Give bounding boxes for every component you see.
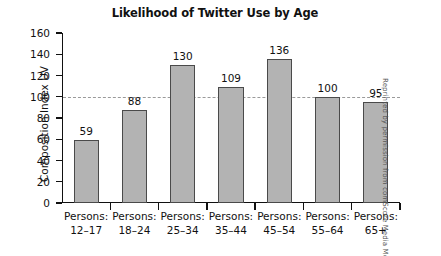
bar-2: [170, 65, 195, 203]
x-cat-label-1: Persons:18–24: [112, 209, 156, 237]
bar-value-label-2: 130: [173, 50, 193, 62]
credit-text: Reprinted by permission from comScore Me…: [381, 78, 389, 238]
y-tick-160: [56, 32, 62, 33]
x-cat-label-line2-0: 12–17: [64, 223, 108, 237]
x-tick-1: [158, 203, 159, 210]
y-tick-label-120: 120: [30, 70, 50, 82]
bar-5: [315, 97, 340, 203]
y-tick-40: [56, 160, 62, 161]
y-tick-100: [56, 96, 62, 97]
x-cat-label-line1-0: Persons:: [64, 209, 108, 223]
x-cat-label-5: Persons:55–64: [305, 209, 349, 237]
y-tick-0: [56, 202, 62, 203]
y-tick-label-20: 20: [37, 176, 50, 188]
x-tick-2: [206, 203, 207, 210]
bar-0: [74, 140, 99, 203]
x-cat-label-line1-5: Persons:: [305, 209, 349, 223]
y-tick-80: [56, 117, 62, 118]
bar-value-label-1: 88: [128, 95, 141, 107]
y-tick-20: [56, 181, 62, 182]
bar-value-label-3: 109: [221, 72, 241, 84]
y-tick-60: [56, 139, 62, 140]
bar-value-label-4: 136: [269, 44, 289, 56]
bar-3: [218, 87, 243, 203]
bar-value-label-5: 100: [318, 82, 338, 94]
x-cat-label-line2-5: 55–64: [305, 223, 349, 237]
bar-value-label-0: 59: [79, 125, 92, 137]
x-cat-label-6: Persons:65+: [354, 209, 398, 237]
y-tick-label-160: 160: [30, 27, 50, 39]
x-cat-label-line2-6: 65+: [354, 223, 398, 237]
x-cat-label-line1-3: Persons:: [209, 209, 253, 223]
y-tick-label-140: 140: [30, 48, 50, 60]
x-cat-label-line1-4: Persons:: [257, 209, 301, 223]
plot-area: 020406080100120140160 598813010913610095: [62, 33, 400, 203]
x-cat-label-line2-2: 25–34: [161, 223, 205, 237]
y-axis-line: [62, 33, 63, 203]
x-cat-label-line1-1: Persons:: [112, 209, 156, 223]
bar-4: [267, 59, 292, 204]
y-tick-label-0: 0: [43, 197, 50, 209]
x-cat-label-3: Persons:35–44: [209, 209, 253, 237]
y-tick-label-60: 60: [37, 133, 50, 145]
y-tick-label-100: 100: [30, 91, 50, 103]
y-tick-label-40: 40: [37, 155, 50, 167]
x-tick-6: [399, 203, 400, 210]
x-cat-label-line2-4: 45–54: [257, 223, 301, 237]
y-tick-140: [56, 54, 62, 55]
chart-title: Likelihood of Twitter Use by Age: [30, 6, 400, 20]
x-cat-label-line2-1: 18–24: [112, 223, 156, 237]
x-tick-5: [351, 203, 352, 210]
y-tick-label-80: 80: [37, 112, 50, 124]
x-cat-label-line1-6: Persons:: [354, 209, 398, 223]
y-tick-120: [56, 75, 62, 76]
x-cat-label-line2-3: 35–44: [209, 223, 253, 237]
chart-figure: Likelihood of Twitter Use by Age Composi…: [0, 0, 441, 256]
x-tick-0: [110, 203, 111, 210]
x-cat-label-0: Persons:12–17: [64, 209, 108, 237]
x-tick-3: [254, 203, 255, 210]
x-cat-label-4: Persons:45–54: [257, 209, 301, 237]
bar-1: [122, 110, 147, 204]
x-tick-4: [303, 203, 304, 210]
x-cat-label-line1-2: Persons:: [161, 209, 205, 223]
x-cat-label-2: Persons:25–34: [161, 209, 205, 237]
